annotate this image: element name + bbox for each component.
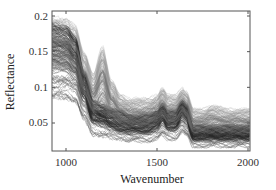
ytick-0.2: 0.2 <box>34 10 48 22</box>
ytick-0.1: 0.1 <box>34 81 48 93</box>
xtick-2000: 2000 <box>237 156 260 168</box>
ytick-0.05: 0.05 <box>29 116 49 128</box>
xtick-1500: 1500 <box>146 156 169 168</box>
x-axis-label: Wavenumber <box>120 172 184 186</box>
ytick-0.15: 0.15 <box>29 45 49 57</box>
y-axis-label: Reflectance <box>3 54 17 111</box>
xtick-1000: 1000 <box>55 156 78 168</box>
spectra-chart: 1000 1500 2000 0.05 0.1 0.15 0.2 Wavenum… <box>0 0 276 190</box>
spectra-lines <box>52 16 250 149</box>
